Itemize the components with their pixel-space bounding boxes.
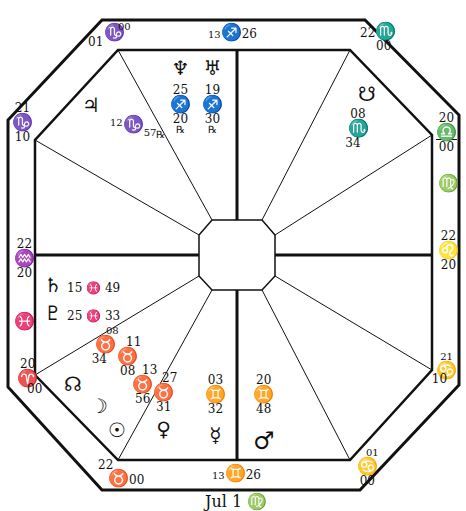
planet-mars: 20 ♊ 48 ♂ <box>253 374 275 453</box>
retrograde-icon: ℞ <box>156 129 165 140</box>
planet-deg: 12 <box>110 117 123 128</box>
planet-min: 34 <box>92 353 107 365</box>
cusp-min: 00 <box>360 475 375 487</box>
center-octagon <box>199 220 275 290</box>
sign-icon-virgo: ♍ <box>438 175 459 192</box>
sign-icon-gemini: ♊ <box>205 386 226 403</box>
planet-neptune: ♆ 25 ♐ 20 ℞ <box>170 58 191 135</box>
planet-min: 48 <box>256 403 271 415</box>
uranus-icon: ♅ <box>204 58 222 78</box>
retrograde-icon: ℞ <box>208 125 217 135</box>
sign-icon-scorpio: ♏ <box>348 120 369 137</box>
sign-icon-taurus: ♉ <box>95 336 116 353</box>
neptune-icon: ♆ <box>172 58 190 78</box>
planet-min: 31 <box>156 401 171 413</box>
cusp-min: 10 <box>15 131 30 143</box>
planet-min: 57 <box>144 127 157 138</box>
mercury-icon: ☿ <box>209 425 221 445</box>
pluto-icon: ♇ <box>44 301 62 325</box>
mars-icon: ♂ <box>253 429 275 453</box>
moon-icon: ☽ <box>90 396 108 416</box>
north-node-icon: ☊ <box>64 374 82 394</box>
sign-icon-cancer: ♋ <box>357 458 378 475</box>
sign-icon-sagittarius: ♐ <box>202 96 223 113</box>
saturn-icon: ♄ <box>44 273 62 297</box>
cusp-deg: 13 <box>208 29 221 40</box>
sign-icon-taurus: ♉ <box>117 348 138 365</box>
cusp-min: 26 <box>246 468 261 482</box>
planet-min: 56 <box>135 393 150 405</box>
cusp-3: 22 ♉00 <box>98 456 144 487</box>
cusp-12: 21 ♑ 10 <box>12 102 33 143</box>
chart-caption: Jul 1 ♍ <box>205 494 267 510</box>
planet-saturn: ♄ 15 ♓ 49 <box>44 275 120 295</box>
planet-uranus: ♅ 19 ♐ 30 ℞ <box>202 58 223 135</box>
venus-icon: ♀ <box>156 419 171 439</box>
cusp-min: 01 <box>88 36 103 48</box>
planet-south-node: ☋ 08 ♏ 34 <box>340 84 376 149</box>
sign-icon-sagittarius: ♐ <box>170 96 191 113</box>
sun-icon: ☉ <box>108 420 126 440</box>
planet-pluto: ♇ 25 ♓ 33 <box>44 303 120 323</box>
cusp-min: 10 <box>432 373 447 385</box>
sign-icon-sagittarius: ♐ <box>221 22 242 42</box>
cusp-desc: 22 ♌ 20 <box>438 230 459 271</box>
cusp-deg: 13 <box>212 470 225 481</box>
cusp-min: 00 <box>129 473 144 487</box>
sign-icon-gemini: ♊ <box>225 463 246 483</box>
sign-icon-capricorn: ♑ <box>123 114 144 134</box>
sign-icon-taurus: ♉ <box>153 384 174 401</box>
planet-mercury: 03 ♊ 32 ☿ <box>205 374 226 445</box>
sign-icon-capricorn: ♑ <box>12 114 33 131</box>
cusp-5: 01 ♋ 00 <box>356 448 379 487</box>
retrograde-icon: ℞ <box>176 125 185 135</box>
cusp-6: 21 ♋ 10 <box>436 352 457 385</box>
cusp-min: 00 <box>27 383 42 395</box>
cusp-8: 20 ♎ 00 <box>436 112 457 153</box>
cusp-mc: 13♐26 <box>208 24 257 41</box>
planet-jupiter-position: 12♑57℞ <box>110 112 165 129</box>
cusp-min: 00 <box>439 141 454 153</box>
sign-icon-gemini: ♊ <box>253 386 274 403</box>
jupiter-icon: ♃ <box>82 95 100 115</box>
cusp-deg: 22 <box>360 26 375 40</box>
sign-icon-taurus: ♉ <box>108 468 129 488</box>
cusp-min: 20 <box>17 267 32 279</box>
cusp-min: 20 <box>441 259 456 271</box>
planet-position: 25 ♓ 33 <box>67 309 120 323</box>
planet-min: 34 <box>345 137 360 149</box>
cusp-9: 22♏ 00 <box>360 23 396 52</box>
cusp-2: 20 ♈ 00 <box>13 358 42 395</box>
planet-position: 15 ♓ 49 <box>67 281 120 295</box>
cusp-deg: 00 <box>118 22 131 32</box>
sign-icon-leo: ♌ <box>438 242 459 259</box>
cusp-asc: 22 ♒ 20 <box>14 238 35 279</box>
planet-venus: 27 ♉ 31 ♀ <box>150 372 177 439</box>
sign-icon-libra: ♎ <box>436 124 457 141</box>
sign-icon-scorpio: ♏ <box>375 21 396 41</box>
sign-icon-pisces: ♓ <box>14 313 35 330</box>
sign-icon-aquarius: ♒ <box>14 250 35 267</box>
cusp-ic: 13♊26 <box>212 465 261 482</box>
planet-min: 32 <box>208 403 223 415</box>
south-node-icon: ☋ <box>358 84 376 104</box>
cusp-min: 26 <box>242 27 257 41</box>
cusp-min: 00 <box>376 40 396 52</box>
